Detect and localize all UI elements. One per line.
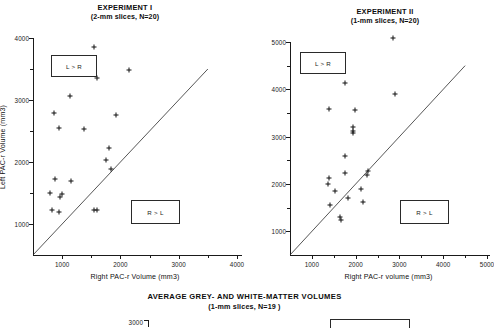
panel1-datapoint: [57, 194, 62, 199]
panel2-datapoint: [365, 172, 370, 177]
panel2-datapoint: [326, 182, 331, 187]
panel1-datapoint: [68, 179, 73, 184]
panel1-datapoint: [68, 93, 73, 98]
panel1-datapoint: [50, 207, 55, 212]
panel1-identity-line: [0, 0, 244, 290]
panel2-legend-lower: R > L: [400, 200, 449, 224]
panel2-x-axis-title: Right PAC-r volume (mm3): [344, 273, 432, 281]
panel1-plot-area: 10002000300040001000200030004000Right PA…: [0, 0, 244, 290]
bottom-axis-top: [144, 320, 149, 321]
panel1-datapoint: [95, 207, 100, 212]
panel1-y-axis-title: Left PAC-r Volume (mm3): [0, 104, 7, 188]
panel2-datapoint: [338, 217, 343, 222]
panel2-datapoint: [346, 196, 351, 201]
panel-experiment-1: EXPERIMENT I (2-mm slices, N=20) 1000200…: [0, 0, 244, 290]
bottom-section: AVERAGE GREY- AND WHITE-MATTER VOLUMES (…: [0, 292, 489, 335]
panel-experiment-2: EXPERIMENT II (1-mm slices, N=20) 100020…: [245, 0, 489, 290]
panel1-datapoint: [114, 112, 119, 117]
panel1-datapoint: [52, 177, 57, 182]
panel2-datapoint: [327, 106, 332, 111]
panel2-datapoint: [343, 81, 348, 86]
panel2-datapoint: [352, 107, 357, 112]
panel1-datapoint: [82, 127, 87, 132]
panel2-datapoint: [342, 171, 347, 176]
bottom-ytick-3000: 3000: [115, 319, 143, 326]
panel2-identity-line: [245, 0, 489, 290]
panel2-datapoint: [393, 92, 398, 97]
panel2-datapoint: [333, 189, 338, 194]
panel1-legend-upper: L > R: [51, 55, 97, 77]
panel1-datapoint: [57, 209, 62, 214]
panel1-datapoint: [108, 167, 113, 172]
panel2-plot-area: 1000200030004000500010002000300040005000…: [245, 0, 489, 290]
panel1-datapoint: [127, 67, 132, 72]
panel2-datapoint: [351, 130, 356, 135]
panel1-legend-lower: R > L: [131, 200, 180, 224]
panel2-datapoint: [343, 153, 348, 158]
panel1-datapoint: [106, 146, 111, 151]
panel1-datapoint: [57, 125, 62, 130]
panel2-datapoint: [390, 36, 395, 41]
panel1-datapoint: [92, 45, 97, 50]
panel1-datapoint: [47, 191, 52, 196]
panel2-datapoint: [360, 199, 365, 204]
bottom-subtitle: (1-mm slices, N=19 ): [0, 302, 489, 311]
panel2-datapoint: [326, 176, 331, 181]
bottom-legend-box: [330, 319, 410, 328]
panel1-datapoint: [51, 111, 56, 116]
panel2-legend-upper: L > R: [300, 52, 346, 74]
panel1-datapoint: [103, 158, 108, 163]
bottom-axis-corner: [148, 320, 149, 327]
panel2-datapoint: [328, 202, 333, 207]
panel1-x-axis-title: Right PAC-r Volume (mm3): [90, 273, 179, 281]
bottom-title: AVERAGE GREY- AND WHITE-MATTER VOLUMES: [0, 292, 489, 301]
panel2-datapoint: [359, 186, 364, 191]
